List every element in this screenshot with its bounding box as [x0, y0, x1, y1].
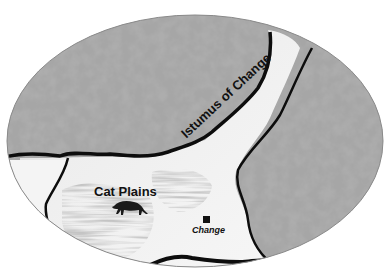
map-illustration: Cat Plains Istumus of Change Change: [0, 0, 390, 275]
city-label-change: Change: [192, 225, 225, 235]
city-marker-icon: [203, 216, 210, 223]
region-label-cat-plains: Cat Plains: [94, 184, 157, 199]
